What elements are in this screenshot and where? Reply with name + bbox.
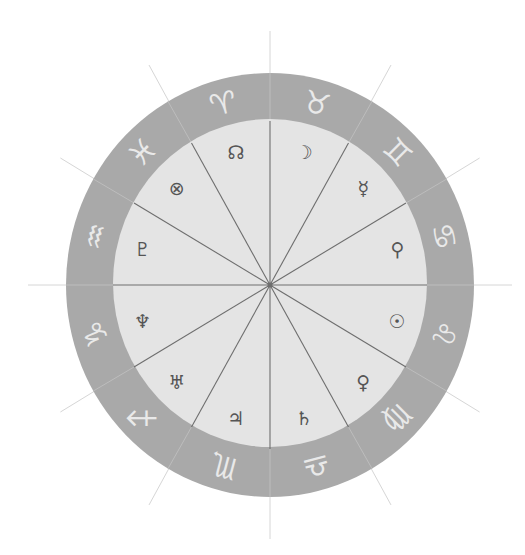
body-sun-icon: ☉ (389, 310, 406, 332)
body-venus-variant-icon: ⚲ (390, 238, 404, 260)
body-moon-icon: ☽ (296, 141, 313, 163)
body-saturn-icon: ♄ (296, 407, 313, 429)
body-neptune-icon: ♆ (134, 310, 151, 332)
body-venus-arrow-icon: ♀ (356, 371, 370, 393)
body-mercury-variant-icon: ☿ (357, 177, 369, 199)
body-uranus-icon: ♅ (168, 371, 185, 393)
body-jupiter-icon: ♃ (227, 407, 244, 429)
body-north-node-icon: ☊ (227, 141, 244, 163)
body-pluto-icon: ♇ (134, 238, 151, 260)
body-part-of-fortune-icon: ⊗ (169, 177, 185, 199)
center-hub (268, 283, 273, 288)
astrology-wheel: ♈♉♊♋♌♍♎♏♐♑♒♓ ☊☽☿⚲☉♀♄♃♅♆♇⊗ (0, 0, 525, 555)
